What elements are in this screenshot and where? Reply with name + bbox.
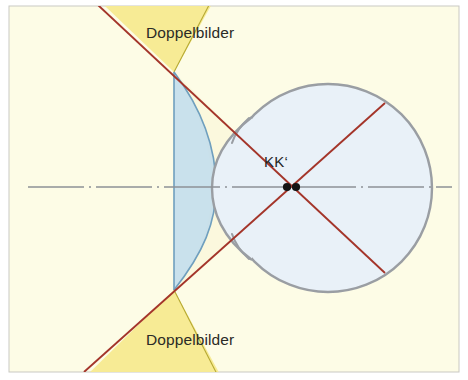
optical-diagram-figure: KK‘ Doppelbilder Doppelbilder xyxy=(0,0,468,380)
nodal-point-k-prime xyxy=(292,183,300,191)
eye-globe xyxy=(224,84,432,292)
lower-doppelbilder-label: Doppelbilder xyxy=(146,331,234,348)
diagram-canvas: KK‘ Doppelbilder Doppelbilder xyxy=(0,0,468,380)
nodal-points-label: KK‘ xyxy=(264,153,288,170)
nodal-point-k xyxy=(283,183,291,191)
upper-doppelbilder-label: Doppelbilder xyxy=(146,24,234,41)
